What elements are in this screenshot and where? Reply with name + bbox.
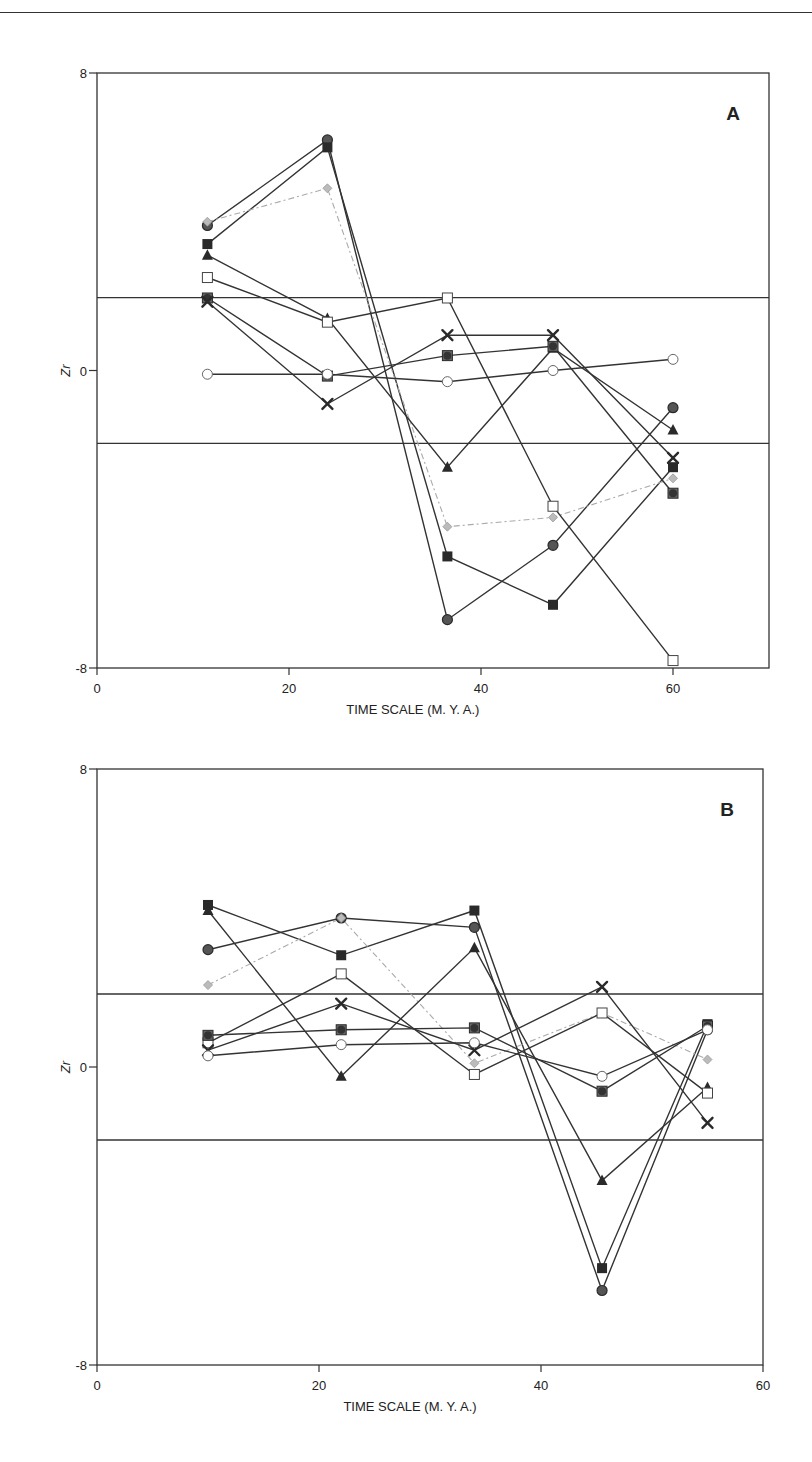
circle-square-marker-icon bbox=[442, 351, 452, 361]
square-open-marker-icon bbox=[202, 273, 212, 283]
diamond-grey-marker-icon bbox=[703, 1055, 712, 1064]
panel-label: B bbox=[720, 799, 734, 820]
series-group bbox=[202, 135, 679, 666]
square-open-marker-icon bbox=[703, 1088, 713, 1098]
circle-filled-marker-icon bbox=[203, 945, 213, 955]
square-open-marker-icon bbox=[469, 1069, 479, 1079]
panel-label: A bbox=[726, 103, 740, 124]
figure-canvas: 8 0 -8 0 20 40 60 TIME SCALE (M. Y. A.) … bbox=[0, 0, 812, 1462]
filled-circle-series-line bbox=[208, 918, 708, 1291]
circle-filled-marker-icon bbox=[548, 540, 558, 550]
chart-panel-b: 8 0 -8 0 20 40 60 TIME SCALE (M. Y. A.) … bbox=[58, 762, 770, 1414]
open-square-series-line bbox=[208, 974, 708, 1093]
square-open-marker-icon bbox=[668, 656, 678, 666]
x-tick-label: 0 bbox=[93, 681, 100, 696]
circle-open-marker-icon bbox=[668, 354, 678, 364]
axis-ticks bbox=[89, 769, 763, 1372]
x-tick-label: 40 bbox=[474, 681, 488, 696]
y-tick-label: -8 bbox=[75, 1358, 87, 1373]
y-axis-title: Zr bbox=[58, 364, 73, 378]
circle-in-square-series-line bbox=[207, 298, 673, 493]
y-tick-label: -8 bbox=[75, 661, 87, 676]
plot-frame bbox=[97, 73, 769, 668]
square-filled-marker-icon bbox=[202, 239, 212, 249]
square-open-marker-icon bbox=[336, 969, 346, 979]
circle-open-marker-icon bbox=[442, 377, 452, 387]
circle-in-square-series-points bbox=[202, 293, 678, 498]
triangle-filled-marker-icon bbox=[469, 942, 480, 953]
diamond-grey-marker-icon bbox=[323, 184, 332, 193]
y-tick-label: 8 bbox=[80, 66, 87, 81]
square-open-marker-icon bbox=[442, 293, 452, 303]
circle-square-marker-icon bbox=[548, 341, 558, 351]
y-tick-label: 8 bbox=[80, 762, 87, 777]
series-markers bbox=[203, 900, 714, 1296]
circle-filled-marker-icon bbox=[597, 1286, 607, 1296]
x-tick-label: 60 bbox=[756, 1378, 770, 1393]
y-tick-label: 0 bbox=[80, 364, 87, 379]
x-tick-label: 60 bbox=[666, 681, 680, 696]
circle-square-marker-icon bbox=[203, 1030, 213, 1040]
cross-series-line bbox=[208, 987, 708, 1123]
open-circle-series-line bbox=[207, 359, 673, 381]
circle-filled-marker-icon bbox=[668, 403, 678, 413]
cross-marker-icon bbox=[597, 982, 607, 992]
x-tick-label: 20 bbox=[312, 1378, 326, 1393]
cross-marker-icon bbox=[336, 999, 346, 1009]
triangle-filled-marker-icon bbox=[597, 1175, 608, 1186]
open-circle-series-points bbox=[203, 1025, 713, 1082]
circle-square-marker-icon bbox=[597, 1086, 607, 1096]
cross-series-points bbox=[203, 982, 713, 1128]
x-axis-title: TIME SCALE (M. Y. A.) bbox=[346, 702, 479, 717]
triangle-filled-marker-icon bbox=[202, 249, 213, 260]
diamond-grey-marker-icon bbox=[549, 513, 558, 522]
x-tick-label: 20 bbox=[282, 681, 296, 696]
filled-square-series-points bbox=[202, 142, 678, 609]
cross-marker-icon bbox=[703, 1118, 713, 1128]
square-filled-marker-icon bbox=[336, 950, 346, 960]
circle-square-marker-icon bbox=[336, 1025, 346, 1035]
cross-marker-icon bbox=[322, 399, 332, 409]
circle-open-marker-icon bbox=[336, 1040, 346, 1050]
circle-square-marker-icon bbox=[469, 1023, 479, 1033]
open-square-series-line bbox=[207, 278, 673, 661]
y-tick-label: 0 bbox=[80, 1060, 87, 1075]
y-axis-title: Zr bbox=[58, 1060, 73, 1074]
diamond-grey-marker-icon bbox=[204, 981, 213, 990]
series-lines bbox=[207, 140, 673, 661]
x-tick-label: 40 bbox=[534, 1378, 548, 1393]
series-markers bbox=[202, 135, 679, 666]
circle-open-marker-icon bbox=[203, 1051, 213, 1061]
square-open-marker-icon bbox=[548, 501, 558, 511]
square-filled-marker-icon bbox=[548, 600, 558, 610]
chart-panel-a: 8 0 -8 0 20 40 60 TIME SCALE (M. Y. A.) … bbox=[58, 66, 769, 717]
cross-series-points bbox=[202, 297, 678, 463]
circle-open-marker-icon bbox=[548, 366, 558, 376]
cross-series-line bbox=[207, 302, 673, 458]
x-tick-label: 0 bbox=[93, 1378, 100, 1393]
square-open-marker-icon bbox=[597, 1008, 607, 1018]
triangle-filled-marker-icon bbox=[668, 424, 679, 435]
diamond-grey-marker-icon bbox=[443, 522, 452, 531]
filled-square-series-points bbox=[203, 900, 713, 1273]
cross-marker-icon bbox=[668, 453, 678, 463]
plot-frame bbox=[97, 769, 763, 1365]
square-filled-marker-icon bbox=[322, 142, 332, 152]
filled-triangle-series-points bbox=[202, 249, 679, 471]
x-axis-title: TIME SCALE (M. Y. A.) bbox=[343, 1399, 476, 1414]
series-group bbox=[203, 900, 714, 1296]
circle-open-marker-icon bbox=[597, 1071, 607, 1081]
square-filled-marker-icon bbox=[442, 551, 452, 561]
circle-open-marker-icon bbox=[202, 369, 212, 379]
filled-square-series-line bbox=[207, 147, 673, 604]
open-square-series-points bbox=[202, 273, 678, 666]
circle-square-marker-icon bbox=[668, 488, 678, 498]
open-square-series-points bbox=[203, 969, 713, 1098]
square-filled-marker-icon bbox=[469, 906, 479, 916]
circle-filled-marker-icon bbox=[469, 922, 479, 932]
filled-circle-series-points bbox=[203, 913, 713, 1296]
circle-open-marker-icon bbox=[322, 369, 332, 379]
circle-filled-marker-icon bbox=[442, 615, 452, 625]
circle-open-marker-icon bbox=[469, 1038, 479, 1048]
circle-open-marker-icon bbox=[703, 1025, 713, 1035]
